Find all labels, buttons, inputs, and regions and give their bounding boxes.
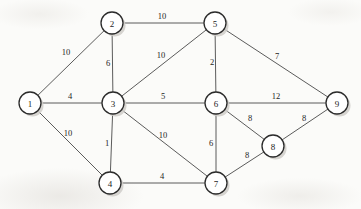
- node-label-1: 1: [28, 99, 33, 109]
- edge-weight-2-5: 10: [158, 11, 167, 21]
- edge-weight-1-4: 10: [64, 128, 73, 138]
- edge-weight-1-2: 10: [62, 47, 71, 57]
- edge-weight-3-4: 1: [105, 138, 109, 148]
- node-label-2: 2: [110, 19, 115, 29]
- graph-node-1[interactable]: 1: [19, 92, 44, 117]
- edge-weight-5-9: 7: [275, 51, 279, 61]
- edge-weight-6-9: 12: [272, 91, 281, 101]
- graph-edge-3-5: [122, 30, 207, 96]
- edge-weight-5-6: 2: [210, 57, 214, 67]
- graph-edge-1-2: [38, 31, 104, 96]
- graph-node-8[interactable]: 8: [262, 135, 287, 160]
- node-label-3: 3: [111, 99, 116, 109]
- edges-layer: [38, 23, 328, 183]
- node-label-6: 6: [214, 99, 219, 109]
- node-label-9: 9: [335, 99, 340, 109]
- edge-weight-3-7: 10: [159, 130, 168, 140]
- graph-edge-2-3: [112, 34, 113, 92]
- edge-weight-6-8: 8: [248, 113, 252, 123]
- graph-edge-3-7: [122, 110, 208, 177]
- graph-canvas: 123456789 10410610105110427126888: [0, 0, 361, 209]
- nodes-layer: 123456789: [19, 12, 351, 197]
- edge-weight-2-3: 6: [106, 58, 110, 68]
- node-label-5: 5: [213, 19, 218, 29]
- edge-weight-1-3: 4: [68, 91, 73, 101]
- graph-edge-5-9: [224, 29, 328, 97]
- edge-weight-4-7: 4: [160, 171, 165, 181]
- node-label-8: 8: [271, 142, 276, 152]
- edge-weight-3-5: 10: [157, 50, 166, 60]
- graph-node-6[interactable]: 6: [205, 92, 230, 117]
- graph-edge-6-8: [225, 110, 264, 140]
- graph-node-4[interactable]: 4: [99, 172, 124, 197]
- graph-node-9[interactable]: 9: [326, 92, 351, 117]
- graph-node-2[interactable]: 2: [101, 12, 126, 37]
- graph-edge-1-4: [38, 111, 102, 175]
- graph-edge-5-6: [215, 34, 216, 92]
- node-label-7: 7: [214, 179, 219, 189]
- graph-node-7[interactable]: 7: [205, 172, 230, 197]
- node-label-4: 4: [108, 179, 113, 189]
- edge-weight-7-8: 8: [245, 150, 249, 160]
- graph-node-5[interactable]: 5: [204, 12, 229, 37]
- graph-edge-3-4: [110, 114, 112, 172]
- edge-weight-8-9: 8: [302, 113, 306, 123]
- edge-weight-3-6: 5: [161, 91, 165, 101]
- graph-figure: 123456789 10410610105110427126888: [0, 0, 361, 209]
- edge-weight-6-7: 6: [209, 138, 213, 148]
